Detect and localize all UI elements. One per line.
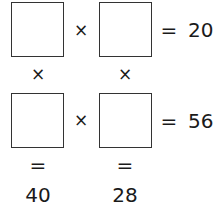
cell-top-right[interactable] xyxy=(99,2,152,57)
equals-sign-row1: = xyxy=(159,20,179,40)
row2-product: 56 xyxy=(188,111,213,131)
times-sign-col2: × xyxy=(105,66,145,83)
times-sign-row2: × xyxy=(71,112,91,129)
times-sign-col1: × xyxy=(18,66,58,83)
cell-top-left[interactable] xyxy=(11,2,64,57)
row1-product: 20 xyxy=(188,20,213,40)
cell-bottom-left[interactable] xyxy=(11,93,64,148)
times-sign-row1: × xyxy=(71,22,91,39)
equals-sign-col2: = xyxy=(105,155,145,175)
col2-product: 28 xyxy=(105,185,145,205)
equals-sign-row2: = xyxy=(159,111,179,131)
col1-product: 40 xyxy=(18,185,58,205)
equals-sign-col1: = xyxy=(18,155,58,175)
cell-bottom-right[interactable] xyxy=(99,93,152,148)
